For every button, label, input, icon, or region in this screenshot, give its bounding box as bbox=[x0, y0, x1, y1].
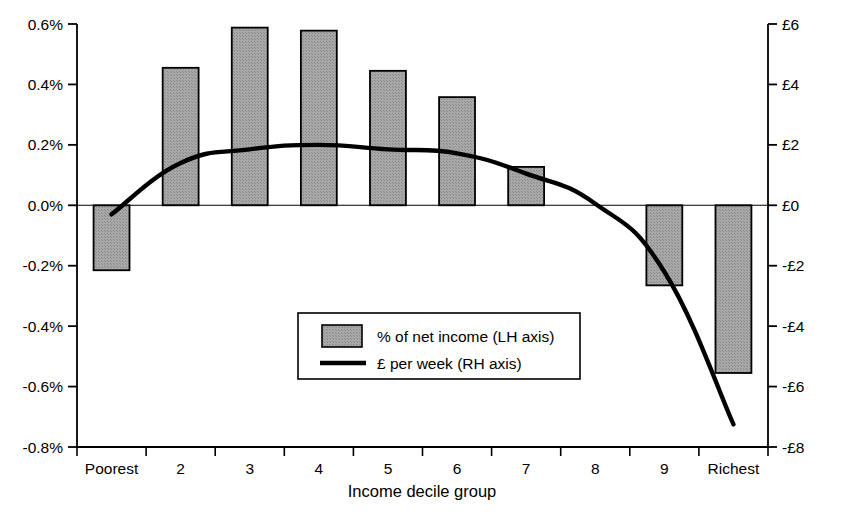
left-tick-label: -0.8% bbox=[23, 439, 64, 456]
left-tick-label: 0.2% bbox=[28, 136, 64, 153]
left-tick-label: 0.0% bbox=[28, 197, 64, 214]
category-label: 2 bbox=[176, 460, 185, 477]
bar bbox=[232, 28, 268, 206]
category-label: 8 bbox=[591, 460, 600, 477]
legend-label-line: £ per week (RH axis) bbox=[377, 355, 522, 372]
right-tick-label: -£2 bbox=[782, 257, 804, 274]
category-label: 5 bbox=[384, 460, 393, 477]
legend-label-bar: % of net income (LH axis) bbox=[377, 328, 554, 345]
left-tick-label: 0.4% bbox=[28, 76, 64, 93]
x-axis-title: Income decile group bbox=[348, 482, 497, 500]
right-tick-label: £0 bbox=[782, 197, 800, 214]
category-ticks bbox=[77, 447, 768, 456]
category-label: Richest bbox=[708, 460, 760, 477]
left-tick-label: -0.2% bbox=[23, 257, 64, 274]
line-series-group bbox=[112, 145, 734, 424]
left-axis-ticks: 0.6%0.4%0.2%0.0%-0.2%-0.4%-0.6%-0.8% bbox=[23, 16, 78, 456]
category-label: 7 bbox=[522, 460, 531, 477]
left-tick-label: 0.6% bbox=[28, 16, 64, 33]
line-path bbox=[112, 145, 734, 424]
category-label: 6 bbox=[453, 460, 462, 477]
category-label: 4 bbox=[315, 460, 324, 477]
bar bbox=[301, 31, 337, 206]
bar bbox=[715, 205, 751, 373]
right-tick-label: £6 bbox=[782, 16, 799, 33]
legend-swatch-bar bbox=[322, 325, 362, 347]
right-tick-label: -£6 bbox=[782, 378, 804, 395]
category-label: 9 bbox=[660, 460, 669, 477]
bar bbox=[370, 71, 406, 205]
chart-container: 0.6%0.4%0.2%0.0%-0.2%-0.4%-0.6%-0.8% £6£… bbox=[0, 0, 850, 520]
right-tick-label: -£8 bbox=[782, 439, 804, 456]
category-label: Poorest bbox=[85, 460, 139, 477]
bar bbox=[163, 68, 199, 205]
left-tick-label: -0.6% bbox=[23, 378, 64, 395]
right-tick-label: £2 bbox=[782, 136, 799, 153]
right-axis-ticks: £6£4£2£0-£2-£4-£6-£8 bbox=[768, 16, 805, 456]
income-decile-chart: 0.6%0.4%0.2%0.0%-0.2%-0.4%-0.6%-0.8% £6£… bbox=[0, 0, 850, 520]
right-tick-label: -£4 bbox=[782, 318, 805, 335]
category-labels: Poorest23456789Richest bbox=[85, 460, 760, 477]
left-tick-label: -0.4% bbox=[23, 318, 64, 335]
chart-legend: % of net income (LH axis) £ per week (RH… bbox=[298, 313, 580, 379]
category-label: 3 bbox=[245, 460, 254, 477]
right-tick-label: £4 bbox=[782, 76, 800, 93]
